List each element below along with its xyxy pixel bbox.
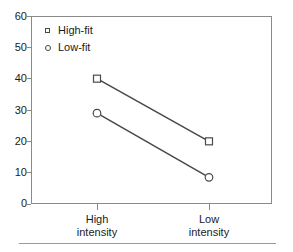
legend-label: Low-fit xyxy=(58,42,90,53)
data-point-marker-square xyxy=(94,75,101,82)
series-high-fit-line xyxy=(97,79,209,142)
y-axis-ticks xyxy=(25,16,31,204)
x-tick-label-line2: intensity xyxy=(164,226,254,239)
series-high-fit xyxy=(94,75,213,145)
data-point-marker-circle xyxy=(205,174,213,182)
x-tick-label-high-intensity: High intensity xyxy=(52,213,142,239)
series-low-fit xyxy=(93,109,213,181)
chart-legend: High-fit Low-fit xyxy=(42,24,93,54)
open-square-icon xyxy=(42,25,53,36)
x-tick-label-line2: intensity xyxy=(52,226,142,239)
chart-figure: 60 50 40 30 20 10 0 xyxy=(0,0,293,252)
data-point-marker-circle xyxy=(93,109,101,117)
legend-item-low-fit: Low-fit xyxy=(42,41,93,54)
data-point-marker-square xyxy=(206,138,213,145)
x-tick-label-line1: Low xyxy=(164,213,254,226)
bottom-divider xyxy=(19,243,276,244)
x-tick-label-low-intensity: Low intensity xyxy=(164,213,254,239)
x-tick-label-line1: High xyxy=(52,213,142,226)
x-axis-ticks xyxy=(97,204,209,210)
open-circle-icon xyxy=(42,42,53,53)
series-low-fit-line xyxy=(97,113,209,177)
legend-item-high-fit: High-fit xyxy=(42,24,93,37)
legend-label: High-fit xyxy=(58,25,93,36)
